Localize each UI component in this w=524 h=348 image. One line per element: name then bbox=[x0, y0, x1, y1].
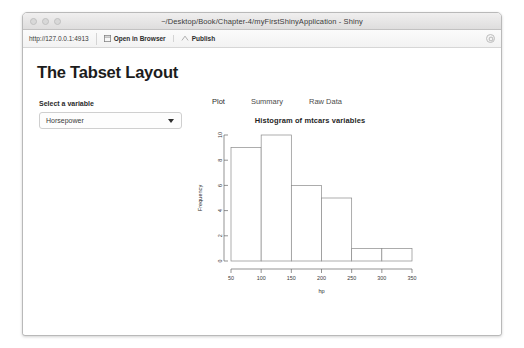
y-tick-label: 0 bbox=[217, 260, 223, 263]
shiny-app-window: ~/Desktop/Book/Chapter-4/myFirstShinyApp… bbox=[22, 12, 502, 336]
tab-raw-data[interactable]: Raw Data bbox=[296, 95, 355, 108]
tab-summary[interactable]: Summary bbox=[238, 95, 296, 108]
y-tick-label: 6 bbox=[217, 184, 223, 187]
variable-select-label: Select a variable bbox=[39, 100, 184, 107]
plot-panel: Histogram of mtcars variables 0246810501… bbox=[195, 116, 425, 306]
histogram-bar bbox=[231, 148, 261, 261]
open-in-browser-button[interactable]: Open in Browser bbox=[97, 35, 174, 42]
upload-icon bbox=[181, 35, 189, 42]
window-title: ~/Desktop/Book/Chapter-4/myFirstShinyApp… bbox=[23, 17, 501, 26]
screenshot-root: ~/Desktop/Book/Chapter-4/myFirstShinyApp… bbox=[0, 0, 524, 348]
x-tick-label: 150 bbox=[287, 275, 296, 281]
tabset-nav: Plot Summary Raw Data bbox=[199, 95, 355, 108]
variable-select[interactable]: Horsepower bbox=[39, 112, 182, 129]
x-tick-label: 350 bbox=[408, 275, 417, 281]
x-tick-label: 200 bbox=[317, 275, 326, 281]
histogram-bar bbox=[352, 248, 382, 261]
open-in-browser-label: Open in Browser bbox=[114, 35, 166, 42]
minimize-button-icon[interactable] bbox=[42, 18, 49, 25]
x-tick-label: 250 bbox=[347, 275, 356, 281]
page-title: The Tabset Layout bbox=[37, 63, 178, 82]
refresh-icon[interactable] bbox=[486, 34, 495, 43]
sidebar-panel: Select a variable Horsepower bbox=[39, 100, 184, 129]
x-tick-label: 100 bbox=[257, 275, 266, 281]
x-tick-label: 50 bbox=[228, 275, 234, 281]
tab-plot[interactable]: Plot bbox=[199, 95, 238, 108]
y-tick-label: 8 bbox=[217, 159, 223, 162]
app-content: The Tabset Layout Select a variable Hors… bbox=[23, 48, 501, 334]
histogram-bar bbox=[291, 185, 321, 261]
zoom-button-icon[interactable] bbox=[54, 18, 61, 25]
publish-label: Publish bbox=[192, 35, 215, 42]
histogram-bar bbox=[322, 198, 352, 261]
close-button-icon[interactable] bbox=[30, 18, 37, 25]
histogram-bar bbox=[261, 135, 291, 261]
window-titlebar[interactable]: ~/Desktop/Book/Chapter-4/myFirstShinyApp… bbox=[23, 13, 501, 30]
y-tick-label: 4 bbox=[217, 209, 223, 212]
chevron-down-icon bbox=[168, 119, 174, 123]
app-url-label: http://127.0.0.1:4913 bbox=[29, 33, 97, 45]
histogram-bar bbox=[382, 248, 412, 261]
x-axis-title: hp bbox=[318, 288, 324, 294]
variable-select-value: Horsepower bbox=[46, 117, 84, 124]
y-tick-label: 2 bbox=[217, 234, 223, 237]
toolbar-right-group bbox=[486, 34, 495, 43]
app-toolbar: http://127.0.0.1:4913 Open in Browser Pu… bbox=[23, 30, 501, 48]
window-icon bbox=[104, 35, 111, 42]
x-tick-label: 300 bbox=[377, 275, 386, 281]
chart-title: Histogram of mtcars variables bbox=[195, 116, 425, 125]
y-tick-label: 10 bbox=[217, 132, 223, 138]
publish-button[interactable]: Publish bbox=[174, 35, 222, 42]
y-axis-title: Frequency bbox=[197, 185, 203, 212]
traffic-light-group bbox=[30, 18, 61, 25]
histogram-chart: 024681050100150200250300350hpFrequency bbox=[195, 127, 420, 295]
